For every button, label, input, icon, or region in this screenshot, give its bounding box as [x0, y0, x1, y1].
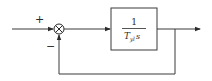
- summing-junction: [54, 24, 64, 34]
- plus-sign: +: [35, 13, 44, 26]
- block-diagram: + − 1 Tyls: [0, 0, 212, 81]
- transfer-function-block: [111, 8, 157, 50]
- minus-sign: −: [46, 40, 55, 53]
- block-numerator: 1: [131, 17, 137, 27]
